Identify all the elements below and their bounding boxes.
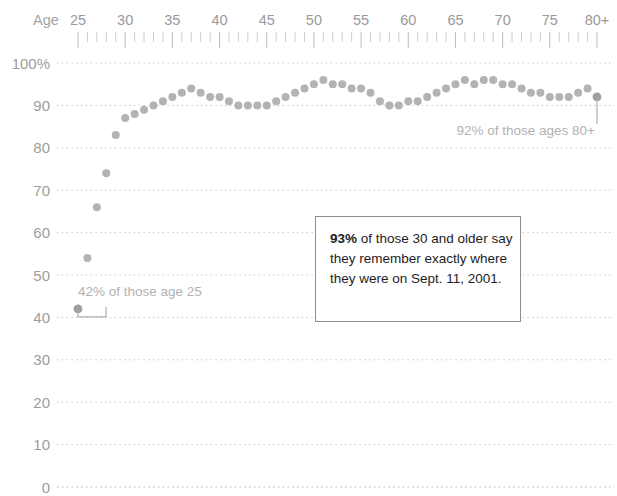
x-axis-title: Age: [33, 12, 59, 28]
data-point: [461, 76, 469, 84]
y-axis-tick-label: 40: [33, 309, 50, 326]
data-point: [395, 101, 403, 109]
data-point: [565, 93, 573, 101]
y-axis-tick-label: 0: [42, 479, 50, 496]
data-point: [159, 97, 167, 105]
callout-body: of those 30 and older say they remember …: [330, 231, 512, 286]
x-axis-tick-label: 35: [164, 12, 180, 28]
data-point: [187, 84, 195, 92]
data-point: [423, 93, 431, 101]
x-axis-tick-label: 65: [447, 12, 463, 28]
data-point: [149, 101, 157, 109]
data-point: [272, 97, 280, 105]
data-point: [480, 76, 488, 84]
y-axis-tick-label: 30: [33, 351, 50, 368]
data-point: [357, 84, 365, 92]
y-axis-tick-label: 10: [33, 436, 50, 453]
x-axis-ticks: [78, 32, 597, 48]
data-point: [253, 101, 261, 109]
data-point: [574, 89, 582, 97]
data-point: [93, 203, 101, 211]
data-point: [300, 84, 308, 92]
y-axis-tick-label: 80: [33, 139, 50, 156]
data-point: [385, 101, 393, 109]
x-axis-tick-label: 45: [259, 12, 275, 28]
callout-text: 93% of those 30 and older say they remem…: [316, 217, 516, 289]
x-axis-tick-label: 60: [400, 12, 416, 28]
x-axis-tick-label: 80+: [585, 12, 610, 28]
data-point: [499, 80, 507, 88]
data-point: [244, 101, 252, 109]
chart-container: 253035404550556065707580+ 100%9080706050…: [0, 0, 617, 496]
data-point: [310, 80, 318, 88]
data-point: [178, 89, 186, 97]
data-point: [518, 84, 526, 92]
data-point: [376, 97, 384, 105]
x-axis-tick-label: 70: [495, 12, 511, 28]
y-axis-tick-label: 50: [33, 267, 50, 284]
data-point: [367, 89, 375, 97]
x-axis-tick-label: 30: [117, 12, 133, 28]
data-point: [291, 89, 299, 97]
data-point: [442, 84, 450, 92]
x-axis-tick-label: 55: [353, 12, 369, 28]
data-point: [131, 110, 139, 118]
data-point: [584, 84, 592, 92]
data-point: [536, 89, 544, 97]
data-point: [489, 76, 497, 84]
data-point: [225, 97, 233, 105]
data-point: [102, 169, 110, 177]
data-point: [234, 101, 242, 109]
data-point: [338, 80, 346, 88]
callout-box: 93% of those 30 and older say they remem…: [315, 216, 521, 322]
x-axis-tick-label: 75: [542, 12, 558, 28]
data-point: [546, 93, 554, 101]
data-point: [112, 131, 120, 139]
data-point: [470, 80, 478, 88]
left-annotation-label: 42% of those age 25: [78, 284, 202, 299]
data-point: [508, 80, 516, 88]
y-axis-tick-label: 100%: [12, 55, 50, 72]
data-point: [140, 106, 148, 114]
data-point: [206, 93, 214, 101]
data-point: [451, 80, 459, 88]
chart-canvas: 253035404550556065707580+ 100%9080706050…: [0, 0, 617, 496]
y-axis-tick-label: 60: [33, 224, 50, 241]
data-point: [197, 89, 205, 97]
data-point: [121, 114, 129, 122]
data-point: [319, 76, 327, 84]
y-axis-tick-label: 70: [33, 182, 50, 199]
data-point: [168, 93, 176, 101]
y-axis-tick-label: 20: [33, 394, 50, 411]
data-point: [433, 89, 441, 97]
callout-highlight: 93%: [330, 231, 357, 246]
data-point: [348, 84, 356, 92]
right-annotation-label: 92% of those ages 80+: [457, 123, 596, 138]
data-point: [83, 254, 91, 262]
data-point: [263, 101, 271, 109]
x-axis-tick-label: 25: [70, 12, 86, 28]
data-point: [527, 89, 535, 97]
data-point: [555, 93, 563, 101]
data-point: [216, 93, 224, 101]
data-point: [404, 97, 412, 105]
data-point: [329, 80, 337, 88]
x-axis-labels: 253035404550556065707580+: [70, 12, 609, 28]
data-point: [414, 97, 422, 105]
y-axis-labels: 100%9080706050403020100: [12, 55, 50, 496]
x-axis-tick-label: 40: [211, 12, 227, 28]
data-point: [282, 93, 290, 101]
x-axis-tick-label: 50: [306, 12, 322, 28]
y-axis-tick-label: 90: [33, 97, 50, 114]
